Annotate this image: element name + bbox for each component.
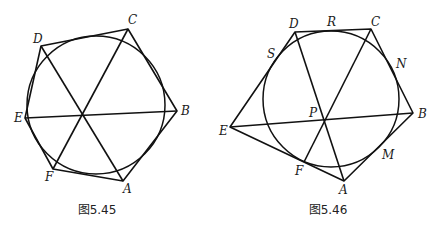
point-label-C: C [371,15,380,29]
figure-5-46: ABCDEFPRSNM 图5.46 [218,15,427,217]
point-label-C: C [128,13,137,27]
point-label-E: E [13,111,23,125]
geometry-figures: ABCDEF 图5.45 ABCDEFPRSNM 图5.46 [0,0,436,226]
point-label-N: N [395,57,407,71]
circumscribed-hexagon [25,29,177,181]
point-label-D: D [288,17,299,31]
vertex-labels: ABCDEFPRSNM [218,15,427,197]
figure-5-45: ABCDEF 图5.45 [13,13,190,217]
point-label-F: F [44,170,54,184]
point-label-M: M [381,148,395,162]
point-label-R: R [326,15,336,29]
point-label-E: E [218,124,228,138]
figure-caption: 图5.46 [309,203,348,217]
vertex-labels: ABCDEF [13,13,190,196]
diagonal-AD [295,32,344,181]
diagonal-CF [53,29,128,169]
figure-caption: 图5.45 [78,203,117,217]
point-label-B: B [180,104,190,118]
diagonal-BE [25,111,177,118]
point-label-D: D [32,32,43,46]
point-label-P: P [308,106,318,120]
diagonal-CF [304,29,371,162]
point-label-F: F [294,164,304,178]
point-label-B: B [417,107,427,121]
point-label-A: A [338,183,348,197]
point-label-A: A [122,182,132,196]
point-label-S: S [267,47,275,61]
